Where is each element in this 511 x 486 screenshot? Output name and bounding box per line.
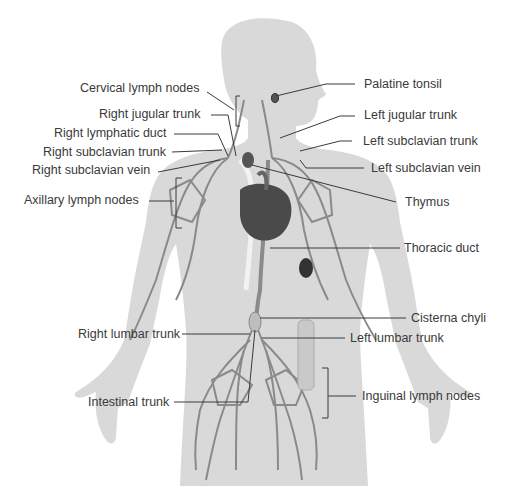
palatine-tonsil-shape [272, 94, 279, 103]
label-right-subclavian-trunk: Right subclavian trunk [43, 145, 166, 159]
label-intestinal-trunk: Intestinal trunk [88, 395, 169, 409]
label-right-jugular-trunk: Right jugular trunk [99, 107, 200, 121]
label-left-jugular-trunk: Left jugular trunk [364, 108, 457, 122]
label-right-subclavian-vein: Right subclavian vein [32, 163, 150, 177]
label-left-lumbar-trunk: Left lumbar trunk [350, 331, 444, 345]
spleen-shape [299, 258, 313, 278]
label-cisterna-chyli: Cisterna chyli [411, 311, 486, 325]
label-right-lymphatic-duct: Right lymphatic duct [54, 126, 167, 140]
label-thymus: Thymus [405, 195, 449, 209]
colon-shape [298, 320, 314, 390]
label-inguinal-lymph-nodes: Inguinal lymph nodes [362, 389, 480, 403]
cisterna-chyli-shape [249, 312, 261, 332]
label-left-subclavian-vein: Left subclavian vein [371, 161, 481, 175]
label-right-lumbar-trunk: Right lumbar trunk [78, 327, 180, 341]
label-palatine-tonsil: Palatine tonsil [364, 77, 442, 91]
label-axillary-lymph-nodes: Axillary lymph nodes [24, 193, 139, 207]
thymus-shape [242, 152, 254, 168]
label-cervical-lymph-nodes: Cervical lymph nodes [80, 81, 200, 95]
label-thoracic-duct: Thoracic duct [404, 241, 479, 255]
label-left-subclavian-trunk: Left subclavian trunk [363, 134, 478, 148]
